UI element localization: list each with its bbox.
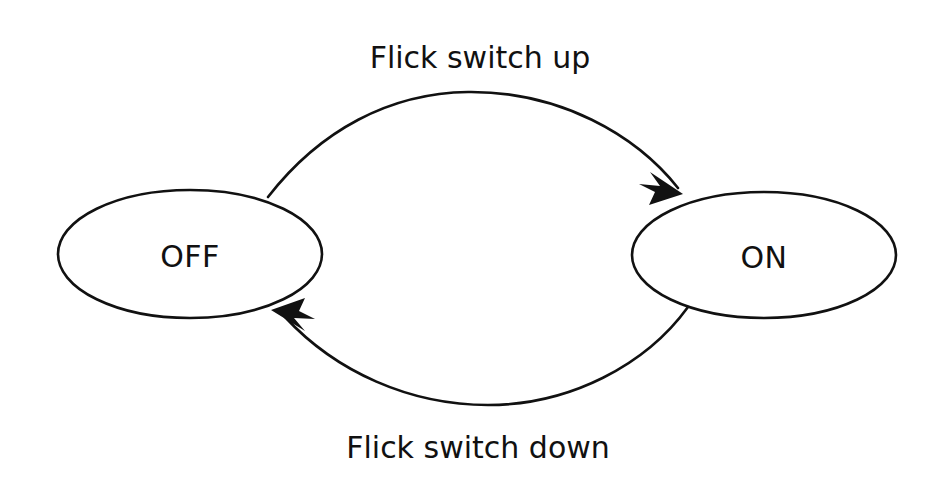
state-label-off: OFF: [160, 239, 220, 274]
state-label-on: ON: [740, 240, 787, 275]
transition-off-to-on[interactable]: [268, 92, 683, 205]
state-diagram: OFF ON Flick switch up Flick switch down: [0, 0, 937, 479]
transition-label-flick-switch-up: Flick switch up: [370, 40, 591, 75]
state-machine-canvas: OFF ON Flick switch up Flick switch down: [0, 0, 937, 479]
transition-arc-off-to-on: [268, 92, 678, 197]
state-node-off[interactable]: OFF: [58, 190, 322, 318]
arrowhead-pointing-to-on: [639, 172, 683, 205]
transition-label-flick-switch-down: Flick switch down: [346, 430, 610, 465]
state-node-on[interactable]: ON: [632, 192, 896, 318]
transition-arc-on-to-off: [285, 307, 688, 405]
transition-on-to-off[interactable]: [271, 298, 688, 405]
